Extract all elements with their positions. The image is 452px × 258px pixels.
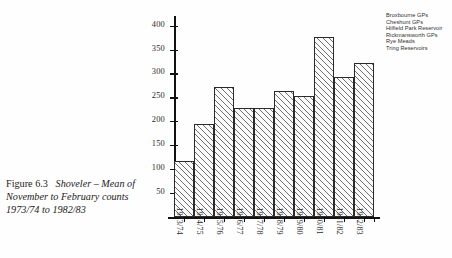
bar-chart: 50100150200250300350400 1973/741974/7519…: [160, 8, 392, 258]
x-axis-label-text: 1973/74: [175, 207, 184, 235]
figure-page: Figure 6.3 Shoveler – Mean of November t…: [0, 0, 452, 258]
x-axis-label-text: 1974/75: [195, 207, 204, 235]
x-axis-label-text: 1981/82: [335, 207, 344, 235]
bar: [274, 91, 294, 217]
legend-item: Tring Reservoirs: [386, 45, 452, 52]
x-axis-label: 1980/81: [314, 221, 334, 258]
bar: [254, 108, 274, 217]
bar: [214, 87, 234, 217]
bar: [314, 37, 334, 217]
figure-title-line3: 1973/74 to 1982/83: [6, 204, 86, 215]
figure-caption: Figure 6.3 Shoveler – Mean of November t…: [6, 177, 158, 217]
bar: [294, 96, 314, 217]
y-tick-label: 300: [152, 67, 165, 77]
bar: [234, 108, 254, 217]
x-axis-label: 1975/76: [214, 221, 234, 258]
x-axis-label: 1979/80: [294, 221, 314, 258]
bar: [354, 63, 374, 217]
x-axis-label: 1976/77: [234, 221, 254, 258]
x-axis-labels: 1973/741974/751975/761976/771977/781978/…: [174, 221, 376, 258]
x-axis-label: 1982/83: [354, 221, 374, 258]
y-tick-label: 350: [152, 44, 165, 54]
x-axis-label-text: 1978/79: [275, 207, 284, 235]
bar: [334, 77, 354, 217]
y-tick-label: 150: [152, 139, 165, 149]
x-axis-label-text: 1980/81: [315, 207, 324, 235]
figure-number: Figure 6.3: [6, 178, 48, 189]
bar-series: [174, 8, 376, 217]
x-axis-label: 1978/79: [274, 221, 294, 258]
x-axis-label-text: 1977/78: [255, 207, 264, 235]
x-axis-label-text: 1976/77: [235, 207, 244, 235]
y-tick-label: 100: [152, 163, 165, 173]
x-axis-label-text: 1982/83: [355, 207, 364, 235]
x-axis-label-text: 1979/80: [295, 207, 304, 235]
y-tick-label: 250: [152, 91, 165, 101]
y-tick-label: 200: [152, 115, 165, 125]
x-axis-label-text: 1975/76: [215, 207, 224, 235]
plot-area: 50100150200250300350400 1973/741974/7519…: [174, 8, 376, 217]
legend-item: Hilfield Park Reservoir: [386, 25, 452, 32]
legend: Broxbourne GPsCheshunt GPsHilfield Park …: [386, 12, 452, 51]
x-axis-label: 1974/75: [194, 221, 214, 258]
x-axis-label: 1977/78: [254, 221, 274, 258]
y-tick-label: 400: [152, 20, 165, 30]
y-tick-label: 50: [156, 187, 165, 197]
figure-title-line1: Shoveler – Mean of: [56, 178, 136, 189]
x-axis-label: 1973/74: [174, 221, 194, 258]
x-axis-label: 1981/82: [334, 221, 354, 258]
bar: [194, 124, 214, 217]
figure-title-line2: November to February counts: [6, 191, 129, 202]
